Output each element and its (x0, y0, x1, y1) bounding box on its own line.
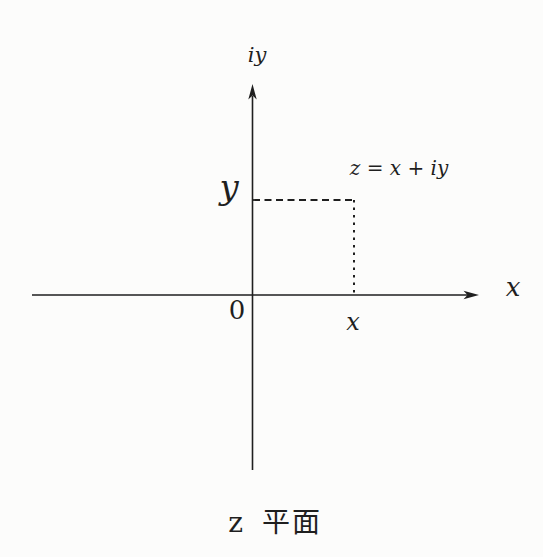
point-equation-label: z = x + iy (350, 158, 448, 178)
point-x-coordinate-label: x (346, 310, 360, 334)
figure-caption: z 平面 (228, 509, 322, 537)
point-y-coordinate-label: y (219, 170, 238, 204)
real-axis-label: x (506, 274, 521, 300)
axes-drawing (0, 0, 543, 557)
z-plane-figure: iy z = x + iy y 0 x x z 平面 (0, 0, 543, 557)
origin-label: 0 (229, 297, 246, 323)
imaginary-axis-label: iy (248, 45, 267, 66)
